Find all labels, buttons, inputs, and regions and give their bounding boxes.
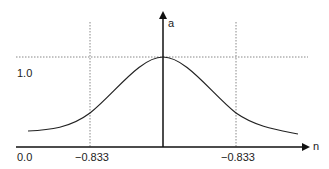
right-mark-label: −0.833 bbox=[221, 152, 255, 163]
y-axis-label: a bbox=[168, 18, 174, 29]
origin-label: 0.0 bbox=[17, 152, 32, 163]
x-axis-arrow-icon bbox=[302, 143, 310, 151]
y-axis-arrow-icon bbox=[159, 11, 167, 19]
left-mark-label: −0.833 bbox=[75, 152, 109, 163]
bell-curve-diagram bbox=[0, 0, 329, 169]
y-level-label: 1.0 bbox=[17, 68, 32, 79]
x-axis-label: n bbox=[313, 141, 319, 152]
